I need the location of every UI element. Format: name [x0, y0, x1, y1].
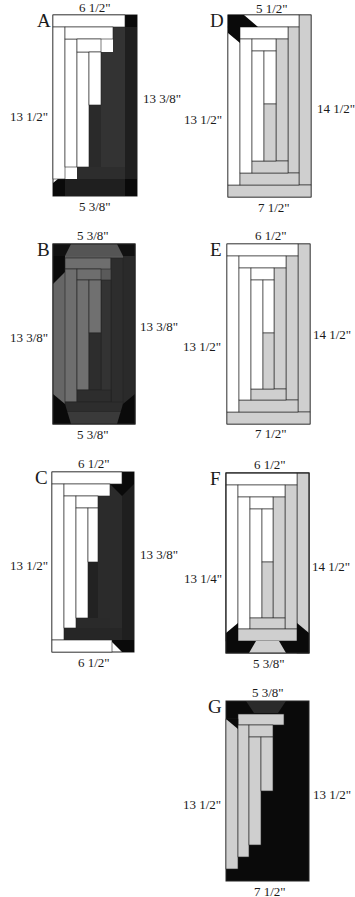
block-e-top-dimension: 6 1/2": [255, 229, 287, 243]
block-f-bottom-dimension: 5 3/8": [253, 657, 285, 671]
quilt-block-e: E 6 1/2" 7 1/2" 13 1/2" 14 1/2": [227, 244, 310, 424]
block-e-bottom-dimension: 7 1/2": [255, 427, 287, 441]
block-b-diagram: [53, 244, 135, 424]
block-c-bottom-dimension: 6 1/2": [78, 656, 110, 670]
block-a-right-dimension: 13 3/8": [143, 92, 181, 106]
block-d-top-dimension: 5 1/2": [256, 2, 288, 16]
quilt-block-a: A 6 1/2" 5 3/8" 13 1/2" 13 3/8": [53, 15, 137, 196]
block-g-right-dimension: 13 1/2": [313, 788, 351, 802]
block-g-bottom-dimension: 7 1/2": [254, 885, 286, 897]
quilt-block-d: D 5 1/2" 7 1/2" 13 1/2" 14 1/2": [228, 15, 311, 197]
block-b-top-dimension: 5 3/8": [77, 229, 109, 243]
block-d-right-dimension: 14 1/2": [317, 102, 355, 116]
block-d-letter: D: [210, 11, 224, 31]
block-a-diagram: [53, 15, 137, 196]
block-f-left-dimension: 13 1/4": [184, 572, 222, 586]
block-g-left-dimension: 13 1/2": [183, 798, 221, 812]
block-b-bottom-dimension: 5 3/8": [77, 428, 109, 442]
block-d-diagram: [228, 15, 311, 197]
block-f-right-dimension: 14 1/2": [312, 560, 350, 574]
block-b-letter: B: [37, 240, 50, 260]
block-f-diagram: [226, 473, 309, 653]
block-d-bottom-dimension: 7 1/2": [258, 201, 290, 215]
block-e-letter: E: [210, 240, 222, 260]
block-c-letter: C: [35, 468, 48, 488]
block-c-diagram: [52, 472, 134, 652]
block-e-right-dimension: 14 1/2": [313, 328, 351, 342]
quilt-block-g: G 5 3/8" 7 1/2" 13 1/2" 13 1/2": [226, 701, 309, 881]
quilt-block-c: C 6 1/2" 6 1/2" 13 1/2" 13 3/8": [52, 472, 134, 652]
block-c-right-dimension: 13 3/8": [140, 548, 178, 562]
quilt-block-b: B 5 3/8" 5 3/8" 13 3/8" 13 3/8": [53, 244, 135, 424]
block-a-top-dimension: 6 1/2": [79, 1, 111, 15]
block-a-letter: A: [37, 11, 51, 31]
block-a-left-dimension: 13 1/2": [10, 110, 48, 124]
block-g-diagram: [226, 701, 309, 881]
block-e-diagram: [227, 244, 310, 424]
block-b-left-dimension: 13 3/8": [10, 331, 48, 345]
block-g-letter: G: [208, 697, 222, 717]
block-f-top-dimension: 6 1/2": [254, 458, 286, 472]
quilt-block-f: F 6 1/2" 5 3/8" 13 1/4" 14 1/2": [226, 473, 309, 653]
block-c-left-dimension: 13 1/2": [10, 559, 48, 573]
block-a-bottom-dimension: 5 3/8": [79, 200, 111, 214]
block-c-top-dimension: 6 1/2": [78, 457, 110, 471]
block-f-letter: F: [210, 469, 221, 489]
block-b-right-dimension: 13 3/8": [140, 320, 178, 334]
block-g-top-dimension: 5 3/8": [252, 686, 284, 700]
block-e-left-dimension: 13 1/2": [183, 340, 221, 354]
block-d-left-dimension: 13 1/2": [184, 113, 222, 127]
